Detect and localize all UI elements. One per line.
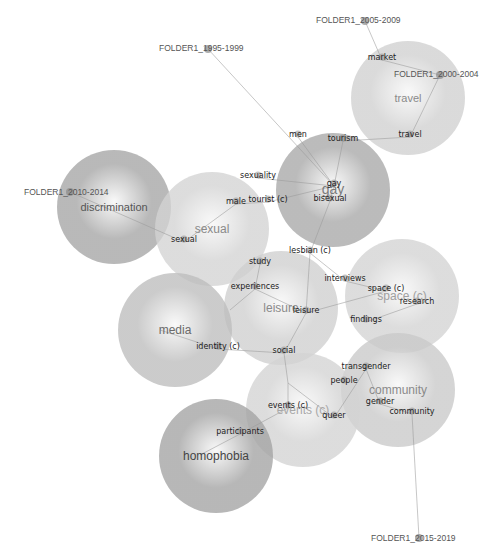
term-label[interactable]: events (c)	[268, 401, 308, 410]
term-label[interactable]: leisure	[293, 306, 320, 315]
folder-label[interactable]: FOLDER1_2015-2019	[371, 533, 456, 543]
term-label[interactable]: bisexual	[313, 194, 346, 203]
term-label[interactable]: identity (c)	[196, 342, 240, 351]
theme-label-sexual: sexual	[195, 222, 230, 236]
term-label[interactable]: tourist (c)	[248, 195, 287, 204]
theme-label-discrimination: discrimination	[80, 201, 147, 213]
term-label[interactable]: sexuality	[240, 171, 276, 180]
theme-circles	[57, 41, 465, 513]
folder-label[interactable]: FOLDER1_2005-2009	[316, 15, 401, 25]
term-label[interactable]: experiences	[231, 282, 280, 291]
term-label[interactable]: study	[249, 257, 271, 266]
term-label[interactable]: queer	[322, 411, 346, 420]
folder-label[interactable]: FOLDER1_2000-2004	[394, 69, 479, 79]
term-label[interactable]: people	[330, 376, 357, 385]
folder-label[interactable]: FOLDER1_1995-1999	[159, 43, 244, 53]
term-label[interactable]: participants	[216, 427, 264, 436]
term-label[interactable]: sexual	[171, 235, 197, 244]
term-label[interactable]: social	[273, 346, 296, 355]
term-label[interactable]: lesbian (c)	[289, 246, 331, 255]
theme-label-travel: travel	[395, 92, 422, 104]
theme-label-community: community	[369, 383, 427, 397]
term-label[interactable]: market	[368, 53, 396, 62]
theme-label-homophobia: homophobia	[183, 449, 249, 463]
term-label[interactable]: travel	[398, 130, 421, 139]
term-label[interactable]: transgender	[342, 362, 392, 371]
folder-label[interactable]: FOLDER1_2010-2014	[24, 187, 109, 197]
term-label[interactable]: tourism	[328, 134, 359, 143]
term-label[interactable]: community	[389, 407, 434, 416]
term-label[interactable]: gay	[327, 179, 342, 188]
term-label[interactable]: gender	[366, 397, 395, 406]
term-label[interactable]: findings	[350, 315, 382, 324]
concept-map: travelgaydiscriminationsexualspace (c)le…	[0, 0, 503, 557]
term-label[interactable]: space (c)	[368, 284, 405, 293]
term-label[interactable]: men	[289, 130, 307, 139]
term-label[interactable]: research	[400, 297, 435, 306]
theme-label-media: media	[159, 323, 192, 337]
concept-edge	[208, 49, 334, 186]
term-label[interactable]: male	[226, 197, 246, 206]
term-label[interactable]: interviews	[324, 274, 365, 283]
